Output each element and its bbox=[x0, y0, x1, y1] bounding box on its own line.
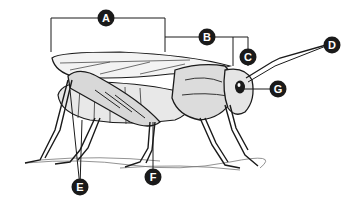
label-D: D bbox=[324, 37, 341, 54]
label-G: G bbox=[270, 81, 287, 98]
label-E: E bbox=[72, 179, 89, 196]
label-B: B bbox=[199, 29, 216, 46]
label-A: A bbox=[98, 10, 115, 27]
label-C: C bbox=[240, 49, 257, 66]
grasshopper-illustration bbox=[0, 0, 357, 202]
label-F: F bbox=[145, 169, 162, 186]
compound-eye bbox=[235, 81, 245, 94]
grasshopper-diagram: A B C D E F G bbox=[0, 0, 357, 202]
